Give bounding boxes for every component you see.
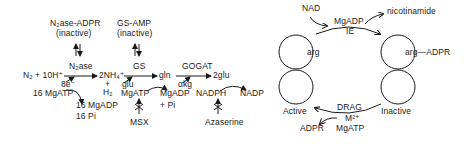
nicotinamide-label: nicotinamide [387, 6, 436, 16]
substrate-label: N₂ + 10H⁺ [23, 70, 63, 80]
gs-amp-label: GS-AMP [117, 18, 151, 28]
active-subunit-bottom [279, 70, 313, 104]
inactive-state-label: Inactive [381, 106, 411, 116]
mgatp-label: MgATP [121, 88, 149, 98]
h2-label: H₂ [103, 87, 113, 97]
equilibrium-arrows-n2ase [76, 44, 80, 56]
n2ase-enzyme-label: N₂ase [69, 61, 93, 71]
mgatp-16-label: 16 MgATP [33, 88, 73, 98]
n2ase-adpr-label: N₂ase-ADPR [50, 18, 101, 28]
adpr-label: ADPR [300, 123, 324, 133]
pi-label: + Pi [160, 100, 175, 110]
gs-amp-state: (inactive) [117, 28, 152, 38]
arg-adpr-label: arg—ADPR [405, 47, 450, 57]
drag-enzyme-label: DRAG [337, 102, 362, 112]
nadph-label: NADPH [196, 88, 226, 98]
equilibrium-arrows-gs [135, 44, 139, 56]
msx-inhibitor-label: MSX [130, 117, 149, 127]
mgadp-cofactor-label: MgADP [334, 16, 364, 26]
inactive-subunit-bottom [381, 70, 415, 104]
metal-ion-label: M²⁺ [345, 113, 360, 123]
mgatp-cofactor-label: MgATP [336, 123, 364, 133]
azaserine-inhibitor-label: Azaserine [205, 117, 244, 127]
two-glu-label: 2glu [213, 70, 229, 80]
ammonium-label: 2NH₄⁺ [99, 70, 124, 80]
mgadp-label: MgADP [160, 88, 190, 98]
gln-label: gln [159, 70, 171, 80]
ie-enzyme-label: IE [346, 26, 354, 36]
gogat-enzyme-label: GOGAT [182, 61, 213, 71]
active-state-label: Active [283, 106, 307, 116]
mgadp-16-label: 16 MgADP [76, 100, 118, 110]
gs-enzyme-label: GS [133, 61, 145, 71]
arg-label: arg [307, 47, 320, 57]
nadp-label: NADP [240, 88, 264, 98]
n2ase-adpr-state: (inactive) [56, 28, 91, 38]
pi-16-label: 16 Pi [76, 111, 96, 121]
nad-label: NAD [302, 3, 320, 13]
